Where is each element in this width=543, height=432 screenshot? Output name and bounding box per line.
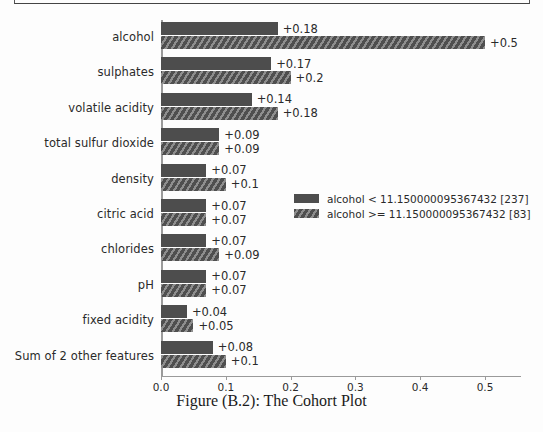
- bar-cohort-low: +0.04: [161, 305, 187, 318]
- bar-cohort-low: +0.17: [161, 57, 271, 70]
- bar-value-label: +0.09: [224, 128, 259, 142]
- bar-value-label: +0.18: [283, 106, 318, 120]
- bar-cohort-high: +0.09: [161, 247, 219, 261]
- bar-group: +0.04+0.05: [161, 305, 193, 332]
- bar-value-label: +0.07: [211, 269, 246, 283]
- bar-group: +0.07+0.07: [161, 199, 206, 226]
- x-tick-mark: [485, 376, 486, 380]
- y-axis-label-total-sulfur-dioxide: total sulfur dioxide: [0, 136, 154, 150]
- bar-value-label: +0.07: [211, 283, 246, 297]
- bar-group: +0.07+0.1: [161, 164, 226, 191]
- chart-row: volatile acidity+0.14+0.18: [0, 93, 543, 127]
- bar-value-label: +0.09: [224, 142, 259, 156]
- bar-cohort-high: +0.1: [161, 354, 226, 368]
- bar-cohort-low: +0.07: [161, 234, 206, 247]
- y-axis-label-chlorides: chlorides: [0, 242, 154, 256]
- bar-group: +0.14+0.18: [161, 93, 278, 120]
- bar-cohort-high: +0.07: [161, 212, 206, 226]
- bar-value-label: +0.04: [192, 305, 227, 319]
- y-axis-label-citric-acid: citric acid: [0, 207, 154, 221]
- bar-cohort-low: +0.09: [161, 128, 219, 141]
- figure-page: alcohol+0.18+0.5sulphates+0.17+0.2volati…: [0, 0, 543, 432]
- bar-value-label: +0.07: [211, 234, 246, 248]
- bar-group: +0.17+0.2: [161, 57, 291, 84]
- legend-item: alcohol >= 11.150000095367432 [83]: [294, 206, 531, 221]
- chart-row: alcohol+0.18+0.5: [0, 22, 543, 56]
- chart-row: total sulfur dioxide+0.09+0.09: [0, 128, 543, 162]
- legend-label: alcohol < 11.150000095367432 [237]: [327, 193, 529, 205]
- bar-cohort-low: +0.18: [161, 22, 278, 35]
- bar-cohort-high: +0.2: [161, 70, 291, 84]
- bar-group: +0.07+0.09: [161, 234, 219, 261]
- x-tick-mark: [355, 376, 356, 380]
- bar-cohort-high: +0.09: [161, 141, 219, 155]
- chart-legend: alcohol < 11.150000095367432 [237]alcoho…: [290, 188, 535, 224]
- bar-value-label: +0.18: [283, 22, 318, 36]
- bar-cohort-high: +0.07: [161, 283, 206, 297]
- bar-value-label: +0.5: [490, 36, 518, 50]
- figure-caption: Figure (B.2): The Cohort Plot: [0, 392, 543, 410]
- y-axis-label-volatile-acidity: volatile acidity: [0, 101, 154, 115]
- bar-cohort-high: +0.1: [161, 177, 226, 191]
- bar-value-label: +0.09: [224, 248, 259, 262]
- bar-value-label: +0.07: [211, 163, 246, 177]
- y-axis-label-sum-of-2-other-features: Sum of 2 other features: [0, 349, 154, 363]
- bar-value-label: +0.07: [211, 199, 246, 213]
- y-axis-label-alcohol: alcohol: [0, 30, 154, 44]
- page-top-rule: [14, 0, 530, 4]
- x-tick-mark: [291, 376, 292, 380]
- bar-cohort-low: +0.07: [161, 270, 206, 283]
- bar-group: +0.07+0.07: [161, 270, 206, 297]
- bar-value-label: +0.07: [211, 213, 246, 227]
- bar-value-label: +0.17: [276, 57, 311, 71]
- y-axis-label-sulphates: sulphates: [0, 65, 154, 79]
- bar-value-label: +0.14: [257, 92, 292, 106]
- bar-cohort-high: +0.18: [161, 106, 278, 120]
- chart-row: fixed acidity+0.04+0.05: [0, 305, 543, 339]
- bar-value-label: +0.08: [218, 340, 253, 354]
- x-tick-mark: [161, 376, 162, 380]
- y-axis-label-ph: pH: [0, 278, 154, 292]
- bar-cohort-low: +0.07: [161, 199, 206, 212]
- bar-cohort-high: +0.05: [161, 318, 193, 332]
- bar-value-label: +0.1: [231, 177, 259, 191]
- y-axis-label-fixed-acidity: fixed acidity: [0, 313, 154, 327]
- chart-row: pH+0.07+0.07: [0, 270, 543, 304]
- chart-row: chlorides+0.07+0.09: [0, 234, 543, 268]
- bar-group: +0.08+0.1: [161, 341, 226, 368]
- chart-row: sulphates+0.17+0.2: [0, 57, 543, 91]
- bar-value-label: +0.2: [296, 71, 324, 85]
- x-tick-mark: [420, 376, 421, 380]
- bar-group: +0.09+0.09: [161, 128, 219, 155]
- bar-group: +0.18+0.5: [161, 22, 485, 49]
- legend-item: alcohol < 11.150000095367432 [237]: [294, 191, 531, 206]
- legend-swatch-solid-icon: [294, 194, 319, 203]
- y-axis-label-density: density: [0, 172, 154, 186]
- chart-row: Sum of 2 other features+0.08+0.1: [0, 341, 543, 375]
- x-tick-mark: [226, 376, 227, 380]
- bar-cohort-low: +0.07: [161, 164, 206, 177]
- cohort-bar-chart: alcohol+0.18+0.5sulphates+0.17+0.2volati…: [0, 16, 543, 388]
- legend-label: alcohol >= 11.150000095367432 [83]: [327, 208, 531, 220]
- bar-value-label: +0.05: [198, 319, 233, 333]
- bar-cohort-low: +0.14: [161, 93, 252, 106]
- bar-cohort-high: +0.5: [161, 35, 485, 49]
- bar-cohort-low: +0.08: [161, 341, 213, 354]
- bar-value-label: +0.1: [231, 354, 259, 368]
- legend-swatch-hatched-icon: [294, 209, 319, 218]
